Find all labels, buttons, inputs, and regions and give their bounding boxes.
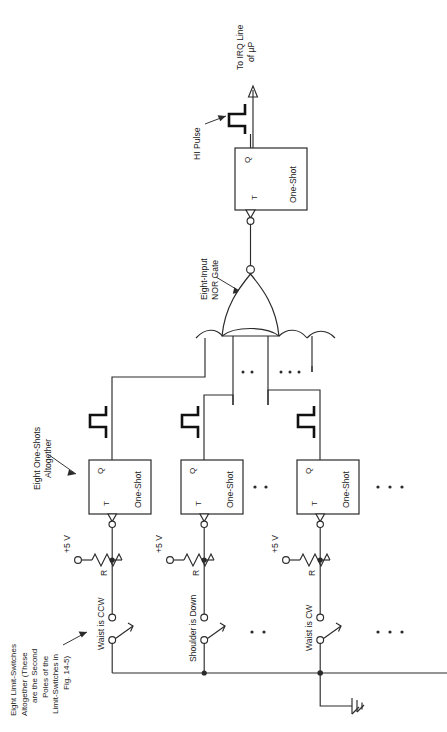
channel-1-resistor: R [99,570,109,576]
channel-3-supply: +5 V [270,535,280,553]
nor-gate-label-line2: NOR Gate [210,260,220,300]
channel-2-t-pin: T [194,501,203,506]
channel-1-t-pin: T [102,501,111,506]
channel-2-q-pin: Q [188,468,197,474]
nor-gate-label: Eight-Input NOR Gate [199,258,220,300]
one-shots-note: Eight One-Shots Altogether [32,427,53,490]
one-shots-note-pointer [49,455,76,476]
hi-pulse-label: HI Pulse [192,127,202,160]
channel-2-name: One-Shot [225,471,235,508]
channel-1-name: One-Shot [133,471,143,508]
channel-1-supply: +5 V [62,535,72,553]
limit-switches-note-pointer [63,632,87,645]
ground-symbol [320,673,364,714]
eight-input-nor-gate [222,266,279,336]
irq-output-net [249,86,258,155]
irq-label: To IRQ Line of µP [235,24,256,70]
output-one-shot-block: Q One-Shot T [235,134,307,224]
channel-3-pullup: +5 V R [270,528,330,577]
limit-note-line5: Limit-Switches in [51,654,60,714]
channel-one-shot-3: Q One-Shot T [297,406,359,528]
nor-input-ellipsis [242,371,301,374]
nor-gate-label-line1: Eight-Input [199,258,209,300]
hi-pulse-text: HI Pulse [192,127,202,160]
channel-2-supply: +5 V [154,535,164,553]
channel-2-resistor: R [191,570,201,576]
limit-note-line4: Poles of the [41,655,50,698]
limit-note-line2: Altogether (These [20,652,29,716]
limit-switch-2[interactable]: Shoulder is Down [188,560,225,676]
channel-one-shot-1: Q One-Shot T [89,406,151,528]
channel-3-resistor: R [307,570,317,576]
channel-one-shot-2: Q One-Shot T [181,406,243,528]
limit-switch-2-label: Shoulder is Down [188,594,198,662]
limit-switch-3-label: Waist is CW [304,604,314,651]
irq-label-line1: To IRQ Line [235,24,245,70]
switch-row-trailing-ellipsis [376,630,403,633]
limit-note-line6: Fig. 14-5) [62,655,71,690]
irq-label-line2: of µP [246,41,256,62]
one-shots-note-line2: Altogether [43,439,53,478]
output-one-shot-t-pin: T [250,195,259,200]
channel-2-pullup: +5 V R [154,528,214,577]
channel-3-q-pin: Q [304,468,313,474]
switch-row-ellipsis [250,630,265,633]
one-shots-note-line1: Eight One-Shots [32,427,42,490]
hi-pulse-waveform-icon [229,104,245,134]
channel-1-pullup: +5 V R [62,528,122,577]
limit-note-line3: are the Second [30,649,39,703]
limit-note-line1: Eight Limit-Switches [9,644,18,716]
channel-3-t-pin: T [310,501,319,506]
limit-switches-note: Eight Limit-Switches Altogether (These a… [9,644,71,716]
one-shot-row-ellipsis [253,485,267,488]
output-one-shot-name: One-Shot [288,166,298,203]
channel-1-q-pin: Q [96,468,105,474]
limit-switch-1-label: Waist is CCW [96,596,106,650]
circuit-diagram: To IRQ Line of µP HI Pulse Q One-Shot T [0,0,447,732]
q-output-routing [112,366,320,438]
limit-switch-3[interactable]: Waist is CW [304,560,341,676]
hi-pulse-pointer [205,115,226,124]
channel-3-name: One-Shot [341,471,351,508]
output-one-shot-q-pin: Q [243,157,252,163]
one-shot-row-trailing-ellipsis [376,485,403,488]
schematic-sheet: To IRQ Line of µP HI Pulse Q One-Shot T [0,0,447,732]
